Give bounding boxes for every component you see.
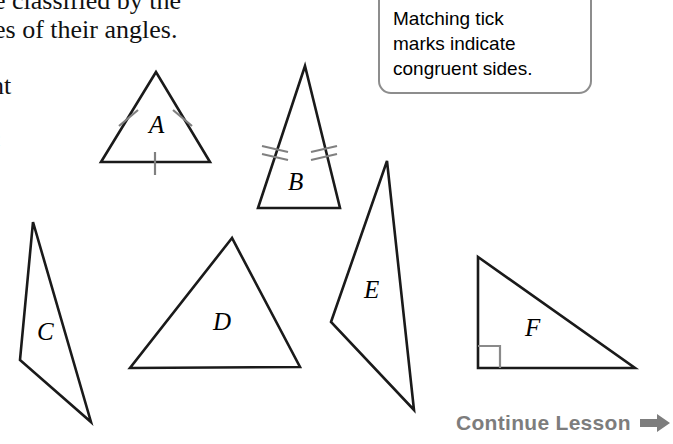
triangle-a-tick-left bbox=[119, 110, 138, 126]
triangle-b-label: B bbox=[288, 168, 303, 195]
triangle-c-label: C bbox=[37, 318, 54, 345]
triangle-diagram: A B C D E F bbox=[0, 0, 673, 444]
lesson-page: e classified by the es of their angles. … bbox=[0, 0, 673, 444]
triangle-f-outline bbox=[478, 257, 635, 368]
triangle-a-tick-right bbox=[173, 110, 192, 126]
triangle-a-label: A bbox=[147, 111, 165, 138]
right-angle-mark-icon bbox=[478, 346, 500, 368]
triangle-c: C bbox=[20, 222, 91, 422]
triangle-f-label: F bbox=[524, 314, 541, 341]
triangle-b: B bbox=[258, 66, 340, 208]
triangle-c-outline bbox=[20, 222, 91, 422]
triangle-e: E bbox=[331, 161, 414, 410]
triangle-f: F bbox=[478, 257, 635, 368]
triangle-a: A bbox=[101, 72, 210, 175]
triangle-b-tick-left-1 bbox=[262, 146, 288, 152]
triangle-e-label: E bbox=[363, 276, 379, 303]
triangle-b-tick-right-2 bbox=[311, 154, 337, 160]
continue-lesson-button[interactable]: Continue Lesson bbox=[456, 411, 670, 435]
continue-lesson-label: Continue Lesson bbox=[456, 411, 631, 435]
triangle-d-outline bbox=[130, 238, 300, 368]
triangle-d-label: D bbox=[212, 308, 231, 335]
arrow-right-icon bbox=[640, 414, 670, 432]
triangle-d: D bbox=[130, 238, 300, 368]
